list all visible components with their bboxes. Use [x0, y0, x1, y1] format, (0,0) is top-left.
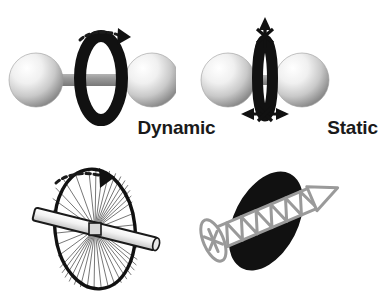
panel-wheel — [0, 147, 176, 295]
sphere-left-static — [201, 53, 255, 107]
sphere-left — [9, 53, 63, 107]
wheel-hub — [89, 223, 101, 235]
caption-static: Static — [176, 117, 382, 139]
sphere-right-static — [275, 53, 329, 107]
sphere-right — [125, 53, 176, 107]
panel-screw — [176, 147, 353, 295]
